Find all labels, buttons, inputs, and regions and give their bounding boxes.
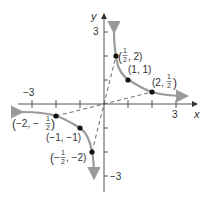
svg-text:): )	[173, 76, 177, 90]
label-neghalf-neg2: ( − 1 2 , −2)	[50, 149, 86, 165]
label-neg1-neg1: (−1, −1)	[46, 132, 81, 143]
svg-text:2: 2	[61, 158, 65, 165]
svg-text:1: 1	[167, 73, 171, 80]
label-2-half: (2, 1 2 )	[152, 73, 177, 90]
x-tick-label-3: 3	[172, 109, 178, 120]
label-half-2: ( 1 2 , 2)	[118, 47, 142, 64]
label-neg2-neghalf: ( −2, − 1 2 )	[12, 115, 55, 131]
svg-text:): )	[51, 117, 55, 131]
y-tick-label-neg3: −3	[110, 171, 122, 182]
svg-text:−: −	[54, 152, 60, 163]
x-axis-label: x	[193, 108, 200, 120]
svg-text:, −2): , −2)	[66, 152, 86, 163]
svg-text:(: (	[118, 50, 122, 64]
svg-text:, 2): , 2)	[128, 51, 142, 62]
svg-text:2: 2	[123, 56, 127, 63]
svg-text:−2, −: −2, −	[16, 118, 39, 129]
svg-text:1: 1	[61, 149, 65, 156]
svg-text:(2,: (2,	[152, 77, 164, 88]
svg-text:1: 1	[46, 115, 50, 122]
y-axis-label: y	[90, 10, 98, 22]
svg-text:1: 1	[123, 47, 127, 54]
graph-reciprocal-function: y x −3 3 3 −3 ( 1 2 , 2) (1, 1) (2, 1 2 …	[0, 0, 208, 200]
x-tick-label-neg3: −3	[23, 87, 35, 98]
svg-text:2: 2	[46, 124, 50, 131]
label-1-1: (1, 1)	[128, 64, 151, 75]
svg-text:2: 2	[167, 82, 171, 89]
y-tick-label-3: 3	[93, 26, 99, 37]
